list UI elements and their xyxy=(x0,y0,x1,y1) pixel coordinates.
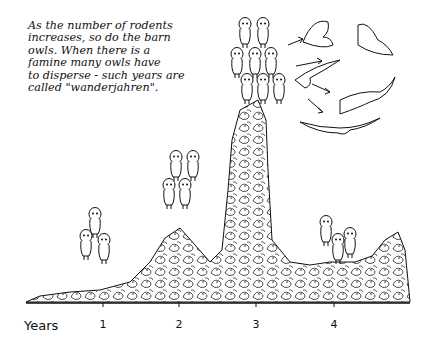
year-2-owls xyxy=(163,151,199,210)
year-1-owls xyxy=(80,208,110,265)
population-diagram xyxy=(0,0,432,349)
years-axis-label: Years xyxy=(24,318,58,333)
year-3-owls xyxy=(231,18,285,105)
tick-year-1: 1 xyxy=(100,318,107,331)
year-4-owls xyxy=(320,216,356,265)
flying-owls xyxy=(295,21,395,134)
tick-year-4: 4 xyxy=(331,318,338,331)
rodent-population-mass xyxy=(26,100,410,302)
tick-year-3: 3 xyxy=(253,318,260,331)
tick-year-2: 2 xyxy=(176,318,183,331)
